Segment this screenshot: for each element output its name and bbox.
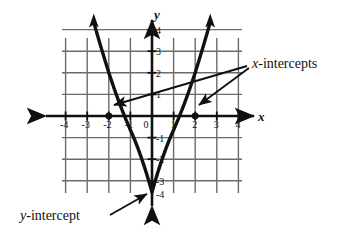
- x-tick-label-0: 0: [144, 120, 149, 130]
- x-intercept-leader-left: [114, 66, 247, 105]
- y-tick-label--2: -2: [156, 155, 164, 165]
- y-tick-label-3: 3: [156, 47, 161, 57]
- x-tick-label-4: 4: [235, 120, 240, 130]
- y-tick-label--1: -1: [156, 134, 164, 144]
- coordinate-plane-svg: [0, 0, 352, 237]
- y-intercept-leader: [110, 194, 147, 215]
- x-intercepts-annotation-text: -intercepts: [258, 56, 317, 71]
- x-tick-label--4: -4: [60, 120, 68, 130]
- y-intercept-annotation: y-intercept: [20, 209, 80, 223]
- y-axis-label: y: [154, 8, 160, 21]
- y-tick-label--4: -4: [156, 190, 164, 200]
- x-tick-label--3: -3: [82, 120, 90, 130]
- x-tick-label--2: -2: [103, 120, 111, 130]
- graph-figure: -4 -3 -2 -1 0 1 2 3 4 4 3 2 1 -1 -2 -3 -…: [0, 0, 352, 237]
- x-intercepts-annotation: x-intercepts: [252, 57, 317, 71]
- y-tick-label-1: 1: [156, 90, 161, 100]
- x-tick-label-1: 1: [171, 120, 176, 130]
- y-intercept-annotation-text: -intercept: [26, 208, 80, 223]
- y-tick-label-4: 4: [156, 26, 161, 36]
- y-tick-label-2: 2: [156, 69, 161, 79]
- x-axis-label: x: [258, 110, 265, 123]
- x-tick-label-2: 2: [192, 120, 197, 130]
- x-tick-label--1: -1: [125, 120, 133, 130]
- y-tick-label--3: -3: [156, 177, 164, 187]
- x-tick-label-3: 3: [214, 120, 219, 130]
